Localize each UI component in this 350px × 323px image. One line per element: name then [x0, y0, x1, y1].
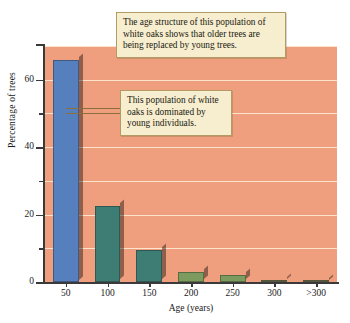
- bar-side-shadow: [120, 200, 124, 279]
- x-tick: [274, 283, 276, 287]
- plot-area: [45, 46, 337, 282]
- y-tick-major: [36, 215, 44, 217]
- bar-side-shadow: [204, 265, 208, 279]
- x-tick: [108, 283, 110, 287]
- bar-face: [261, 280, 287, 282]
- bar-side-shadow: [329, 274, 333, 279]
- bar-200: [178, 272, 204, 282]
- y-tick-label: 20: [8, 209, 34, 219]
- y-tick-minor: [39, 248, 44, 250]
- gridline: [45, 248, 337, 249]
- bar-face: [95, 206, 121, 282]
- bar-300: [261, 280, 287, 282]
- x-tick: [316, 283, 318, 287]
- gridline: [45, 147, 337, 148]
- x-tick: [191, 283, 193, 287]
- gridline: [45, 181, 337, 182]
- bar-side-shadow: [287, 273, 291, 279]
- x-tick: [149, 283, 151, 287]
- y-tick-minor: [39, 181, 44, 183]
- figure: Percentage of trees Age (years) The age …: [0, 0, 350, 323]
- gridline: [45, 80, 337, 81]
- bar-250: [220, 275, 246, 282]
- bar-gt300: [303, 281, 329, 283]
- y-tick-minor: [39, 113, 44, 115]
- bar-face: [178, 272, 204, 282]
- x-tick: [233, 283, 235, 287]
- y-tick-major: [36, 147, 44, 149]
- y-tick-major: [36, 282, 44, 284]
- x-axis-title: Age (years): [45, 303, 337, 313]
- bar-face: [303, 280, 329, 282]
- gridline: [45, 215, 337, 216]
- bar-100: [95, 206, 121, 282]
- bar-side-shadow: [246, 269, 250, 279]
- bar-side-shadow: [79, 53, 83, 279]
- bar-face: [53, 60, 79, 283]
- bar-face: [220, 275, 246, 282]
- y-axis-title: Percentage of trees: [7, 50, 17, 170]
- x-tick-label: >300: [292, 288, 340, 298]
- y-axis-cap-tick: [36, 44, 44, 46]
- bar-50: [53, 60, 79, 283]
- x-tick: [66, 283, 68, 287]
- y-tick-label: 0: [8, 276, 34, 286]
- annotation-callout-middle: This population of white oaks is dominat…: [120, 90, 232, 136]
- callout-leader-line-2: [66, 113, 121, 114]
- callout-leader-line: [66, 108, 121, 109]
- bar-face: [136, 250, 162, 282]
- y-tick-label: 60: [8, 74, 34, 84]
- bar-150: [136, 250, 162, 282]
- y-tick-major: [36, 80, 44, 82]
- bar-side-shadow: [162, 243, 166, 279]
- annotation-callout-top: The age structure of this population of …: [116, 12, 286, 58]
- y-tick-label: 40: [8, 141, 34, 151]
